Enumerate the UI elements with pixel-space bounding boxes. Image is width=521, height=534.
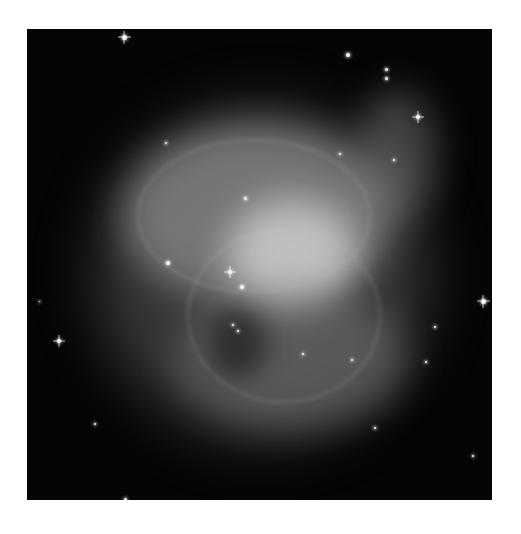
star: [385, 77, 388, 80]
nebula-filament: [137, 139, 371, 293]
star: [94, 423, 96, 425]
star: [351, 359, 353, 361]
star: [472, 455, 474, 457]
star: [374, 427, 376, 429]
star: [57, 339, 61, 343]
star: [228, 270, 232, 274]
star: [346, 53, 350, 57]
nebula-right-arm: [357, 89, 437, 219]
star: [302, 353, 304, 355]
star: [124, 498, 127, 501]
star: [244, 197, 247, 200]
star: [416, 115, 420, 119]
star: [481, 299, 486, 304]
star: [339, 153, 341, 155]
nebula-photo: [27, 29, 492, 500]
star: [434, 326, 436, 328]
star: [165, 142, 167, 144]
star: [240, 285, 244, 289]
star: [237, 330, 239, 332]
star: [393, 159, 395, 161]
star: [385, 68, 388, 71]
star: [122, 35, 127, 40]
star: [425, 361, 427, 363]
star: [232, 324, 234, 326]
star: [166, 261, 170, 265]
star: [39, 301, 40, 302]
